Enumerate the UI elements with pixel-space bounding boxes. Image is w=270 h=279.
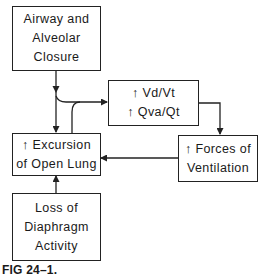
arrow-airway-to-ratios bbox=[56, 96, 107, 102]
node-loss-diaphragm-activity: Loss of Diaphragm Activity bbox=[12, 193, 101, 261]
figure-caption: FIG 24–1. bbox=[2, 263, 57, 277]
node-label-line: ↑ Excursion bbox=[22, 136, 91, 155]
node-label-line: Alveolar bbox=[32, 29, 80, 48]
node-vd-vt-qva-qt: ↑ Vd/Vt ↑ Qva/Qt bbox=[108, 80, 199, 126]
node-label-line: ↑ Forces of bbox=[185, 140, 251, 159]
arrow-excursion-to-ratios bbox=[72, 102, 80, 133]
node-excursion-open-lung: ↑ Excursion of Open Lung bbox=[12, 133, 101, 176]
node-label-line: Ventilation bbox=[187, 159, 249, 178]
node-label-line: Activity bbox=[35, 237, 78, 256]
arrowhead-mid-vertical bbox=[53, 86, 60, 93]
node-label-line: Closure bbox=[34, 48, 80, 67]
node-label-line: Diaphragm bbox=[24, 218, 89, 237]
arrow-ratios-to-forces bbox=[198, 103, 220, 134]
node-forces-of-ventilation: ↑ Forces of Ventilation bbox=[178, 135, 258, 182]
node-label-line: Airway and bbox=[24, 10, 90, 29]
node-airway-alveolar-closure: Airway and Alveolar Closure bbox=[12, 6, 101, 71]
node-label-line: Loss of bbox=[35, 199, 78, 218]
node-label-line: ↑ Vd/Vt bbox=[132, 84, 175, 103]
node-label-line: ↑ Qva/Qt bbox=[127, 103, 180, 122]
node-label-line: of Open Lung bbox=[16, 155, 97, 174]
